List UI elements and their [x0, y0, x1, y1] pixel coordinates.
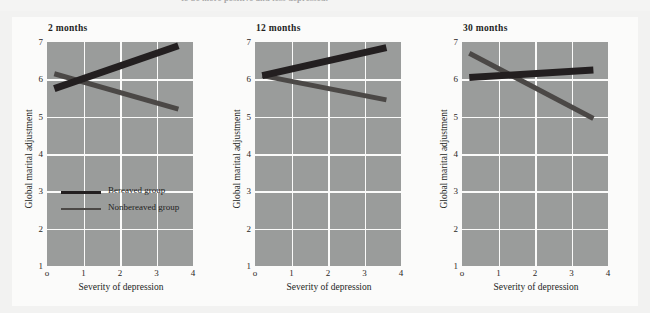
x-tick: 4 [183, 268, 203, 278]
panel-title: 30 months [463, 23, 508, 33]
legend-label: Nonbereaved group [108, 202, 179, 212]
x-tick: 2 [318, 268, 338, 278]
line-bereaved [262, 48, 386, 76]
x-tick: 1 [74, 268, 94, 278]
x-tick: o [452, 268, 472, 278]
y-axis-label: Global marital adjustment [232, 99, 242, 219]
x-tick: 4 [598, 268, 618, 278]
x-axis-ticks: o 1 2 3 4 [462, 268, 608, 282]
legend-swatch-nonbereaved [61, 208, 101, 210]
y-axis-label: Global marital adjustment [439, 99, 449, 219]
y-tick: 2 [225, 224, 251, 234]
plot-area [255, 42, 401, 266]
panel-30-months: 30 months 7 6 5 4 3 2 1 [427, 17, 630, 306]
y-axis-label: Global marital adjustment [24, 99, 34, 219]
x-tick: o [245, 268, 265, 278]
panel-2-months: 2 months 7 6 5 4 3 2 1 [12, 17, 215, 306]
x-tick: 3 [147, 268, 167, 278]
x-tick: 3 [355, 268, 375, 278]
legend-label: Bereaved group [108, 185, 165, 195]
caption-text: to be more positive and less depressed. [181, 0, 328, 3]
series-lines [47, 42, 193, 266]
caption-strip: to be more positive and less depressed. [0, 0, 650, 11]
y-tick: 6 [225, 74, 251, 84]
x-axis-label: Severity of depression [26, 282, 216, 292]
y-tick: 6 [17, 74, 43, 84]
x-axis-label: Severity of depression [441, 282, 631, 292]
panel-title: 12 months [256, 23, 301, 33]
x-tick: 1 [282, 268, 302, 278]
line-bereaved [54, 46, 178, 89]
y-tick: 7 [225, 37, 251, 47]
x-tick: 2 [525, 268, 545, 278]
legend: Bereaved group Nonbereaved group [61, 185, 191, 219]
figure-card: 2 months 7 6 5 4 3 2 1 [12, 17, 638, 306]
y-tick: 2 [432, 224, 458, 234]
series-lines [462, 42, 608, 266]
y-tick: 2 [17, 224, 43, 234]
x-tick: 1 [489, 268, 509, 278]
line-bereaved [469, 70, 593, 77]
y-tick: 6 [432, 74, 458, 84]
x-tick: 4 [391, 268, 411, 278]
y-tick: 7 [432, 37, 458, 47]
y-tick: 7 [17, 37, 43, 47]
plot-area: Bereaved group Nonbereaved group [47, 42, 193, 266]
panel-title: 2 months [48, 23, 88, 33]
x-tick: 3 [562, 268, 582, 278]
panel-12-months: 12 months 7 6 5 4 3 2 1 [220, 17, 423, 306]
x-axis-ticks: o 1 2 3 4 [255, 268, 401, 282]
line-nonbereaved [262, 76, 386, 100]
x-axis-ticks: o 1 2 3 4 [47, 268, 193, 282]
x-tick: 2 [110, 268, 130, 278]
legend-item-nonbereaved: Nonbereaved group [61, 202, 191, 218]
legend-swatch-bereaved [61, 191, 101, 194]
x-tick: o [37, 268, 57, 278]
series-lines [255, 42, 401, 266]
x-axis-label: Severity of depression [234, 282, 424, 292]
plot-area [462, 42, 608, 266]
figure-screenshot: to be more positive and less depressed. … [0, 0, 650, 313]
legend-item-bereaved: Bereaved group [61, 185, 191, 201]
line-nonbereaved [469, 53, 593, 118]
